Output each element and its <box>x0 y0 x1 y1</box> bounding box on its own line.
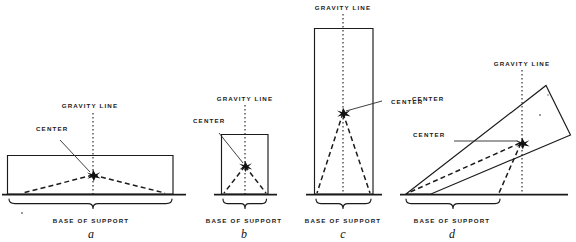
figure-c-gravity-line-label: GRAVITY LINE <box>315 4 372 11</box>
figure-d-center-label-line1: CENTER <box>413 131 445 138</box>
figure-d-gravity-line-label: GRAVITY LINE <box>494 60 551 67</box>
figure-d-speck-upper <box>547 94 549 96</box>
figure-a-base-bracket <box>9 199 172 208</box>
figure-b-dashed-leg-left <box>224 166 245 193</box>
figure-b: GRAVITY LINE CENTER BASE OF SUPPORT b <box>193 95 282 242</box>
figure-d-base-bracket <box>406 199 500 208</box>
figure-b-center-of-gravity-marker <box>239 161 252 173</box>
figure-b-leader-line <box>219 133 243 163</box>
figure-c-leader-line <box>346 101 382 111</box>
figure-b-letter: b <box>241 227 247 241</box>
diagram-canvas: GRAVITY LINE CENTER BASE OF SUPPORT a GR… <box>0 0 576 242</box>
figure-c: GRAVITY LINE CENTER BASE OF SUPPORT c <box>305 4 424 242</box>
figure-a-gravity-line-label: GRAVITY LINE <box>62 102 119 109</box>
figure-a: GRAVITY LINE CENTER BASE OF SUPPORT a <box>2 102 186 242</box>
figure-d-dashed-leg-left <box>408 143 520 193</box>
figure-c-base-label: BASE OF SUPPORT <box>305 217 381 224</box>
figure-a-center-label-line1: CENTER <box>36 125 68 132</box>
figure-d-letter: d <box>449 227 456 241</box>
figure-a-dashed-leg-left <box>23 175 93 193</box>
figure-a-base-label: BASE OF SUPPORT <box>53 217 129 224</box>
figure-d-center-label-upper-line1: CENTER <box>412 95 444 102</box>
figure-b-base-bracket <box>223 199 267 208</box>
figure-b-base-label: BASE OF SUPPORT <box>206 217 282 224</box>
figure-b-gravity-line-label: GRAVITY LINE <box>217 95 274 102</box>
figure-c-letter: c <box>340 227 346 241</box>
figure-d-base-label: BASE OF SUPPORT <box>414 217 490 224</box>
figure-c-base-bracket <box>316 199 371 208</box>
figure-c-center-of-gravity-marker <box>337 107 351 119</box>
figure-b-center-label-line1: CENTER <box>193 117 225 124</box>
figure-a-speck <box>21 212 23 214</box>
figure-c-dashed-leg-right <box>343 113 370 193</box>
figure-b-dashed-leg-right <box>245 166 266 193</box>
figure-a-dashed-leg-right <box>93 175 165 193</box>
figure-d: GRAVITY LINE CENTER CENTER BASE OF SUPPO… <box>400 60 571 242</box>
figure-d-speck-inner <box>539 114 541 116</box>
figure-a-letter: a <box>88 227 94 241</box>
diagram-page: GRAVITY LINE CENTER BASE OF SUPPORT a GR… <box>0 0 576 242</box>
figure-d-body-outline <box>406 86 571 195</box>
figure-c-dashed-leg-left <box>317 113 343 193</box>
